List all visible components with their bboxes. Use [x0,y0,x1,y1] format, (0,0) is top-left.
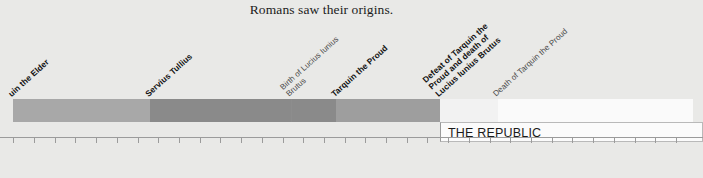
axis-minor-tick-542 [303,138,304,143]
axis-minor-tick-507 [448,138,449,143]
axis-minor-tick-592 [96,138,97,143]
axis-minor-tick-482 [552,138,553,143]
axis-minor-tick-552 [262,138,263,143]
axis-minor-tick-477 [572,138,573,143]
axis-minor-tick-577 [158,138,159,143]
axis-minor-tick-527 [365,138,366,143]
axis-minor-tick-512 [427,138,428,143]
event-label-death-of-tarquin-the-proud: Death of Tarquin the Proud [492,28,570,99]
axis-minor-tick-557 [241,138,242,143]
axis-minor-tick-582 [138,138,139,143]
axis-minor-tick-587 [117,138,118,143]
bar-segment-tarquin-the-proud-reign [336,99,440,122]
axis-minor-tick-597 [75,138,76,143]
event-label-tarquin-the-elder: uin the Elder [7,58,51,99]
period-label-republic: THE REPUBLIC [440,122,703,142]
axis-minor-tick-462 [635,138,636,143]
bar-segment-tarquin-the-elder-reign [13,99,150,122]
bar-segment-servius-tullius-reign [150,99,291,122]
axis-minor-tick-522 [386,138,387,143]
axis-minor-tick-572 [179,138,180,143]
axis-minor-tick-567 [200,138,201,143]
bar-segment-brutus-birth-interval [291,99,338,122]
event-label-defeat-of-tarquin-the-proud: Defeat of Tarquin the Proud and death of… [421,22,503,99]
axis-minor-tick-607 [34,138,35,143]
axis-minor-tick-547 [283,138,284,143]
axis-minor-tick-537 [324,138,325,143]
timeline-diagram: uin the ElderServius TulliusBirth of Luc… [0,0,703,178]
axis-minor-tick-452 [676,138,677,143]
axis-minor-tick-472 [593,138,594,143]
timeline-bar [0,99,703,122]
axis-minor-tick-502 [469,138,470,143]
timeline-axis-line [0,137,703,138]
axis-minor-tick-457 [655,138,656,143]
axis-minor-tick-492 [510,138,511,143]
bar-segment-transition-509-495 [440,99,498,122]
bar-segment-republic-period [498,99,693,122]
axis-minor-tick-517 [407,138,408,143]
axis-minor-tick-497 [490,138,491,143]
axis-minor-tick-562 [220,138,221,143]
event-label-servius-tullius: Servius Tullius [144,52,195,99]
axis-minor-tick-467 [614,138,615,143]
axis-minor-tick-487 [531,138,532,143]
axis-minor-tick-612 [13,138,14,143]
axis-minor-tick-602 [55,138,56,143]
axis-minor-tick-532 [345,138,346,143]
